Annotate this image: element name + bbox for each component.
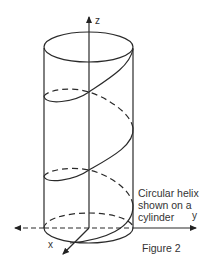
figure-label: Figure 2	[142, 242, 181, 254]
figure-caption: Circular helix shown on a cylinder	[138, 187, 199, 223]
z-axis-label: z	[95, 15, 100, 26]
x-axis-label: x	[48, 239, 53, 250]
helix-cylinder-diagram	[0, 0, 210, 264]
